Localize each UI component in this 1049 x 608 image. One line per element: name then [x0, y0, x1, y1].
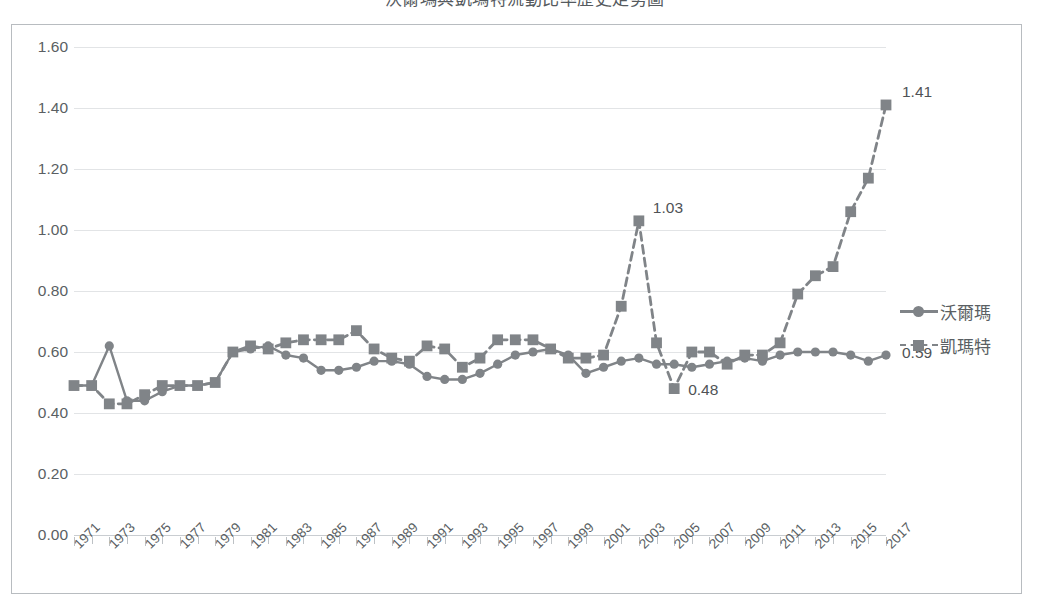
- plot-area: 1.030.481.410.59: [74, 47, 886, 535]
- data-point-marker[interactable]: [69, 380, 80, 391]
- data-point-marker[interactable]: [492, 334, 503, 345]
- data-point-marker[interactable]: [792, 289, 803, 300]
- data-point-marker[interactable]: [404, 356, 415, 367]
- data-point-marker[interactable]: [280, 337, 291, 348]
- data-point-marker[interactable]: [245, 341, 256, 352]
- x-axis-tick-mark: [127, 537, 128, 544]
- data-point-marker[interactable]: [634, 354, 643, 363]
- data-point-marker[interactable]: [863, 173, 874, 184]
- data-point-marker[interactable]: [422, 372, 431, 381]
- data-point-marker[interactable]: [352, 363, 361, 372]
- data-point-marker[interactable]: [617, 357, 626, 366]
- data-point-marker[interactable]: [122, 398, 133, 409]
- data-point-marker[interactable]: [810, 270, 821, 281]
- data-point-marker[interactable]: [457, 362, 468, 373]
- data-label-1-41: 1.41: [902, 83, 932, 101]
- data-point-marker[interactable]: [599, 363, 608, 372]
- data-point-marker[interactable]: [316, 334, 327, 345]
- data-point-marker[interactable]: [670, 360, 679, 369]
- data-point-marker[interactable]: [739, 350, 750, 361]
- data-point-marker[interactable]: [828, 261, 839, 272]
- data-point-marker[interactable]: [458, 375, 467, 384]
- data-point-marker[interactable]: [299, 354, 308, 363]
- data-point-marker[interactable]: [757, 350, 768, 361]
- data-point-marker[interactable]: [775, 350, 784, 359]
- data-point-marker[interactable]: [722, 359, 733, 370]
- y-axis-tick-label: 1.40: [12, 99, 68, 117]
- data-point-marker[interactable]: [828, 347, 837, 356]
- series-kmart: [69, 100, 892, 410]
- data-point-marker[interactable]: [263, 344, 274, 355]
- data-point-marker[interactable]: [317, 366, 326, 375]
- data-point-marker[interactable]: [493, 360, 502, 369]
- data-point-marker[interactable]: [510, 334, 521, 345]
- y-axis-tick-label: 1.20: [12, 160, 68, 178]
- data-label-1-03: 1.03: [653, 199, 683, 217]
- data-point-marker[interactable]: [105, 341, 114, 350]
- data-point-marker[interactable]: [686, 347, 697, 358]
- data-point-marker[interactable]: [704, 347, 715, 358]
- data-point-marker[interactable]: [175, 380, 186, 391]
- data-point-marker[interactable]: [227, 347, 238, 358]
- data-point-marker[interactable]: [333, 334, 344, 345]
- data-point-marker[interactable]: [864, 357, 873, 366]
- data-point-marker[interactable]: [581, 353, 592, 364]
- data-point-marker[interactable]: [475, 369, 484, 378]
- data-point-marker[interactable]: [528, 334, 539, 345]
- x-axis-tick-mark: [268, 537, 269, 544]
- x-axis-tick-mark: [233, 537, 234, 544]
- data-point-marker[interactable]: [104, 398, 115, 409]
- y-axis-tick-label: 1.60: [12, 38, 68, 56]
- data-point-marker[interactable]: [598, 350, 609, 361]
- data-point-marker[interactable]: [545, 344, 556, 355]
- data-point-marker[interactable]: [210, 377, 221, 388]
- data-point-marker[interactable]: [334, 366, 343, 375]
- data-point-marker[interactable]: [281, 350, 290, 359]
- data-point-marker[interactable]: [775, 337, 786, 348]
- data-point-marker[interactable]: [369, 344, 380, 355]
- legend-item-kmart[interactable]: 凱瑪特: [900, 328, 1015, 362]
- data-point-marker[interactable]: [351, 325, 362, 336]
- x-axis-tick-mark: [833, 537, 834, 544]
- data-point-marker[interactable]: [86, 380, 97, 391]
- legend-label-walmart: 沃爾瑪: [938, 299, 991, 324]
- data-point-marker[interactable]: [528, 347, 537, 356]
- data-point-marker[interactable]: [705, 360, 714, 369]
- data-point-marker[interactable]: [298, 334, 309, 345]
- data-point-marker[interactable]: [440, 375, 449, 384]
- x-axis: 1971197319751977197919811983198519871989…: [74, 537, 886, 597]
- chart-title: 沃爾瑪與凱瑪特流動比率歷史走勢圖: [0, 0, 1049, 8]
- data-point-marker[interactable]: [192, 380, 203, 391]
- data-point-marker[interactable]: [651, 337, 662, 348]
- legend-item-walmart[interactable]: 沃爾瑪: [900, 294, 1015, 328]
- data-point-marker[interactable]: [157, 380, 168, 391]
- x-axis-tick-mark: [374, 537, 375, 544]
- data-point-marker[interactable]: [846, 350, 855, 359]
- data-point-marker[interactable]: [881, 350, 890, 359]
- x-axis-tick-mark: [445, 537, 446, 544]
- x-axis-tick-mark: [339, 537, 340, 544]
- data-point-marker[interactable]: [439, 344, 450, 355]
- data-point-marker[interactable]: [687, 363, 696, 372]
- x-axis-tick-mark: [303, 537, 304, 544]
- y-axis-tick-label: 0.60: [12, 343, 68, 361]
- data-point-marker[interactable]: [139, 389, 150, 400]
- data-point-marker[interactable]: [793, 347, 802, 356]
- data-point-marker[interactable]: [652, 360, 661, 369]
- x-axis-tick-mark: [727, 537, 728, 544]
- data-point-marker[interactable]: [811, 347, 820, 356]
- data-point-marker[interactable]: [881, 100, 892, 111]
- data-point-marker[interactable]: [845, 206, 856, 217]
- data-point-marker[interactable]: [616, 301, 627, 312]
- data-point-marker[interactable]: [669, 383, 680, 394]
- data-point-marker[interactable]: [581, 369, 590, 378]
- x-axis-tick-mark: [551, 537, 552, 544]
- data-point-marker[interactable]: [633, 215, 644, 226]
- data-point-marker[interactable]: [422, 341, 433, 352]
- data-point-marker[interactable]: [369, 357, 378, 366]
- data-point-marker[interactable]: [386, 353, 397, 364]
- data-point-marker[interactable]: [511, 350, 520, 359]
- data-point-marker[interactable]: [563, 353, 574, 364]
- x-axis-tick-mark: [762, 537, 763, 544]
- data-point-marker[interactable]: [475, 353, 486, 364]
